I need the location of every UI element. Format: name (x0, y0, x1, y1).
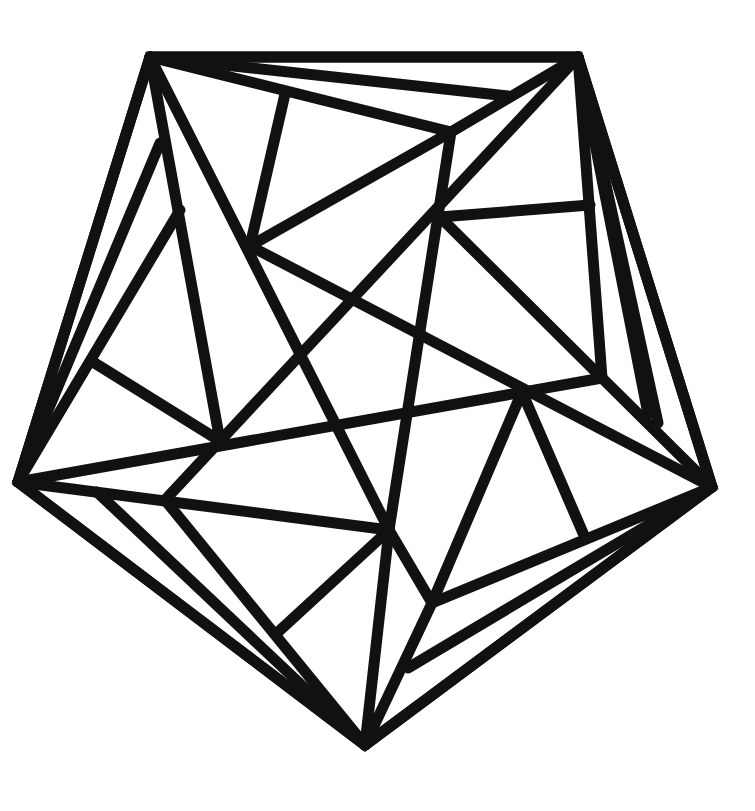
triangulated-pentagon-figure (0, 0, 755, 811)
diagram-canvas (0, 0, 755, 811)
